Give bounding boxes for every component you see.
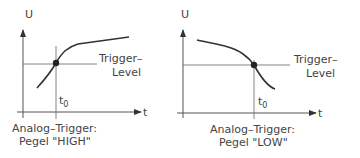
caption-line2: Pegel "HIGH"	[19, 135, 91, 148]
trigger-diagrams: U t Trigger– Level t0 Analog–Trigger: Pe…	[0, 0, 360, 158]
t0-label: t0	[59, 94, 68, 109]
trigger-point	[251, 62, 257, 68]
diagram-high: U t Trigger– Level t0 Analog–Trigger: Pe…	[12, 8, 148, 148]
trigger-point	[53, 60, 59, 66]
y-axis-label: U	[25, 8, 33, 21]
caption-line2: Pegel "LOW"	[219, 136, 288, 149]
trigger-label-line2: Level	[306, 67, 335, 80]
caption-line1: Analog–Trigger:	[12, 122, 97, 135]
t0-label: t0	[258, 95, 267, 110]
trigger-label-line1: Trigger–	[293, 53, 337, 66]
trigger-label-line2: Level	[112, 66, 141, 79]
signal-curve-falling	[197, 40, 275, 89]
trigger-label-line1: Trigger–	[98, 52, 142, 65]
y-axis-label: U	[181, 8, 189, 21]
x-axis-label: t	[143, 106, 148, 119]
diagram-low: U t Trigger– Level t0 Analog–Trigger: Pe…	[177, 8, 337, 149]
caption-line1: Analog–Trigger:	[210, 123, 295, 136]
x-axis-label: t	[318, 107, 323, 120]
